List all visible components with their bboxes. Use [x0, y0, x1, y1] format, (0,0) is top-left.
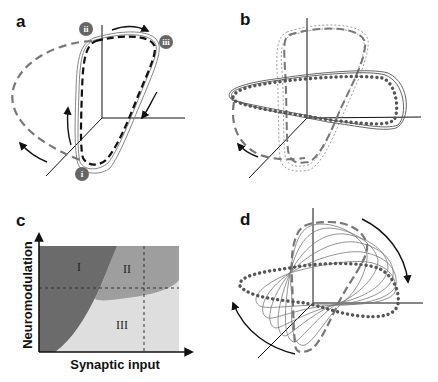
grey-dashed-excursion-a [12, 41, 92, 160]
dotted-heavy-loop-d [240, 264, 398, 317]
grey-dashed-loop-b [284, 29, 365, 163]
dashed-cycle-a [81, 37, 155, 165]
marker-ii: ii [79, 22, 93, 36]
thin-horizontal-loops-b [229, 71, 406, 130]
marker-i: i [75, 167, 89, 181]
dotted-thin-loops-b [277, 25, 368, 171]
y-axis-label: Neuromodulation [20, 241, 35, 349]
panel-c-phase-diagram: I II III Synaptic input Neuromodulation [20, 234, 192, 372]
arrow-left-up-a [67, 108, 71, 145]
x-axis-label: Synaptic input [70, 357, 160, 372]
arrow-bottom-left-a [20, 143, 47, 162]
thin-limit-cycles-a [75, 32, 159, 173]
svg-text:iii: iii [162, 37, 170, 47]
arrow-right-a [142, 92, 157, 118]
panel-b-diagram [229, 18, 421, 178]
region-label-III: III [116, 318, 128, 332]
arrow-left-b [238, 144, 258, 157]
marker-iii: iii [159, 35, 173, 49]
panel-a-diagram: ii iii i [12, 22, 185, 181]
panel-d-diagram [233, 208, 423, 358]
arrow-top-a [112, 27, 148, 31]
thin-morphing-loops-d [256, 224, 396, 345]
svg-text:ii: ii [83, 24, 89, 34]
region-label-I: I [77, 260, 81, 274]
region-label-II: II [123, 262, 131, 276]
